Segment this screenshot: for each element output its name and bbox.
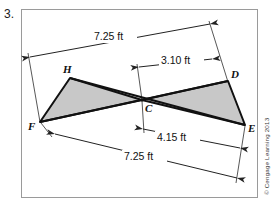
extension-line-F-bottom (41, 123, 52, 137)
extension-line-D-top (209, 21, 228, 82)
vertex-label-F: F (27, 120, 36, 132)
geometry-figure: 3. 7.25 ft 3.10 ft 4.15 ft 7.25 (0, 0, 279, 208)
dimension-label-top-overall: 7.25 ft (94, 30, 123, 42)
dimension-label-bottom-overall: 7.25 ft (124, 150, 153, 162)
copyright-credit: © Cengage Learning 2013 (263, 117, 270, 195)
figure-container: 3. 7.25 ft 3.10 ft 4.15 ft 7.25 (0, 0, 279, 208)
dimension-label-bottom-right: 4.15 ft (157, 131, 186, 143)
vertex-label-H: H (62, 63, 72, 75)
vertex-label-C: C (145, 102, 153, 114)
extension-line-C-up (137, 64, 142, 100)
problem-number: 3. (4, 7, 14, 21)
dimension-label-top-right: 3.10 ft (161, 54, 190, 66)
extension-line-F-top (28, 53, 40, 122)
vertex-label-E: E (247, 122, 255, 134)
extension-line-E-bottom (236, 126, 245, 183)
vertex-label-D: D (230, 68, 239, 80)
extension-line-C-down (142, 101, 144, 133)
point-C-dot (140, 98, 143, 101)
